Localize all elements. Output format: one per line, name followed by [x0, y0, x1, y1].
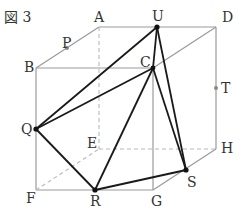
- label-b: B: [24, 59, 34, 75]
- label-f: F: [26, 190, 36, 206]
- edge-cd: [153, 27, 216, 68]
- label-c: C: [140, 54, 151, 70]
- label-g: G: [151, 193, 162, 209]
- label-e: E: [87, 135, 97, 151]
- point-u: [154, 24, 159, 29]
- point-q: [33, 126, 38, 131]
- segment-rs: [95, 170, 186, 190]
- label-r: R: [90, 193, 101, 209]
- point-t: [214, 86, 218, 90]
- point-c: [151, 66, 156, 71]
- figure-title: 図 3: [4, 9, 31, 25]
- label-a: A: [93, 9, 105, 25]
- label-q: Q: [21, 121, 32, 137]
- cube-diagram: 図 3 A D U P B C T Q E H S F R G: [0, 0, 242, 220]
- cube-edges: [36, 27, 216, 190]
- segment-cs: [153, 68, 186, 170]
- label-p: P: [62, 35, 71, 51]
- label-t: T: [221, 80, 231, 96]
- label-s: S: [187, 174, 197, 190]
- segment-uq: [36, 27, 157, 129]
- label-d: D: [222, 9, 233, 25]
- label-u: U: [152, 8, 164, 24]
- segment-uc: [153, 27, 157, 68]
- hidden-edges: [36, 27, 216, 190]
- label-h: H: [221, 140, 233, 156]
- pyramid-segments: [36, 27, 186, 190]
- segment-cq: [36, 68, 153, 129]
- point-s: [183, 167, 188, 172]
- segment-cr: [95, 68, 153, 190]
- point-r: [92, 187, 97, 192]
